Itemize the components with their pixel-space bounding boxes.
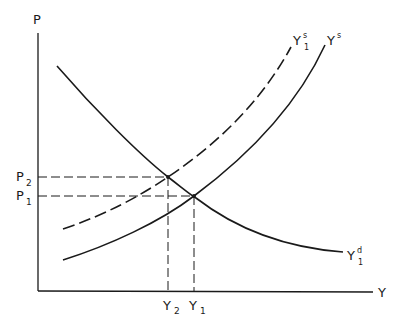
y2-label-sub: 2 xyxy=(174,306,180,316)
p2-label: P xyxy=(16,169,24,184)
demand-curve-label-sup: d xyxy=(357,246,362,255)
y-axis-label: P xyxy=(33,12,41,27)
x-axis xyxy=(38,291,373,292)
supply-curve-label-sup: s xyxy=(337,31,341,40)
p1-label: P xyxy=(16,188,24,203)
p1-label-sub: 1 xyxy=(26,197,32,207)
y1-label-sub: 1 xyxy=(200,306,206,316)
equilibrium-point-1 xyxy=(192,194,196,198)
p2-label-sub: 2 xyxy=(26,178,32,188)
supply-shifted-curve-label-sup: s xyxy=(303,31,307,40)
demand-curve-label-sub: 1 xyxy=(358,258,363,267)
demand-curve xyxy=(57,66,343,252)
x-axis-label: Y xyxy=(377,285,386,300)
y2-label: Y xyxy=(162,298,171,313)
supply-curve-label: Y xyxy=(326,33,335,48)
equilibrium-point-2 xyxy=(166,175,170,179)
supply-shifted-curve-label-sub: 1 xyxy=(304,43,309,52)
supply-shifted-curve-label: Y xyxy=(292,33,301,48)
supply-demand-diagram: P Y P 2 P 1 Y 2 Y 1 Y d 1 Y s 1 Y s xyxy=(0,0,403,330)
supply-shifted-curve xyxy=(63,47,291,229)
demand-curve-label: Y xyxy=(346,248,355,263)
y1-label: Y xyxy=(188,298,197,313)
